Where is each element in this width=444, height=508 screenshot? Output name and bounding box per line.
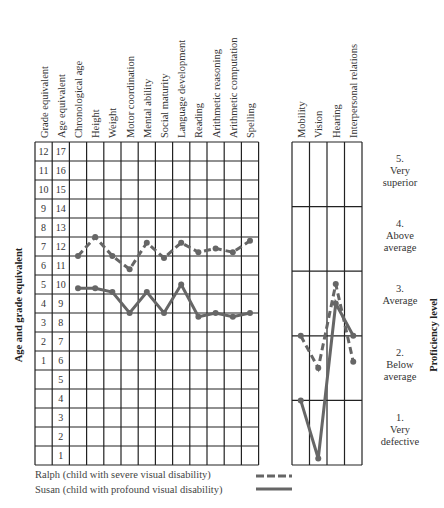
data-point xyxy=(213,245,219,251)
proficiency-chart: 1211109876543211716151413121110987654321… xyxy=(0,0,444,508)
column-header: Arithmetic reasoning xyxy=(211,48,222,138)
data-point xyxy=(92,234,98,240)
age-tick: 15 xyxy=(56,184,66,195)
data-point xyxy=(92,285,98,291)
column-header: Grade equivalent xyxy=(39,66,50,138)
y-axis-label-left: Age and grade equivalent xyxy=(13,247,24,362)
grade-tick: 10 xyxy=(39,184,49,195)
column-header: Social maturity xyxy=(159,73,170,138)
data-point xyxy=(230,249,236,255)
legend-ralph-label: Ralph (child with severe visual disabili… xyxy=(35,469,211,480)
column-header: Hearing xyxy=(331,103,342,138)
age-tick: 14 xyxy=(56,203,66,214)
grade-tick: 2 xyxy=(41,336,46,347)
y-axis-label-right: Proficiency level xyxy=(428,298,439,372)
grade-tick: 7 xyxy=(41,241,46,252)
column-header: Language development xyxy=(176,40,187,138)
data-point xyxy=(127,266,133,272)
data-point xyxy=(350,359,356,365)
grade-tick: 8 xyxy=(41,222,46,233)
data-point xyxy=(230,314,236,320)
column-header: Chronological age xyxy=(73,60,84,138)
column-header: Weight xyxy=(107,108,118,138)
column-header: Height xyxy=(90,109,101,138)
grade-tick: 11 xyxy=(39,165,49,176)
level-label: Very xyxy=(390,424,411,435)
level-number: 2. xyxy=(396,347,404,358)
level-number: 3. xyxy=(396,283,404,294)
data-point xyxy=(298,397,304,403)
grade-tick: 3 xyxy=(41,317,46,328)
level-number: 5. xyxy=(396,153,404,164)
level-label: superior xyxy=(383,177,418,188)
data-point xyxy=(178,240,184,246)
column-header: Age equivalent xyxy=(56,74,67,138)
data-point xyxy=(144,289,150,295)
data-point xyxy=(333,281,339,287)
age-tick: 9 xyxy=(58,298,63,309)
column-header: Vision xyxy=(313,110,324,138)
legend-susan-label: Susan (child with profound visual disabi… xyxy=(35,484,223,495)
age-tick: 4 xyxy=(58,393,63,404)
age-tick: 13 xyxy=(56,222,66,233)
data-point xyxy=(195,249,201,255)
age-tick: 7 xyxy=(58,336,63,347)
age-tick: 17 xyxy=(56,146,66,157)
level-number: 1. xyxy=(396,412,404,423)
age-tick: 1 xyxy=(58,450,63,461)
level-label: defective xyxy=(381,436,420,447)
grade-tick: 5 xyxy=(41,279,46,290)
column-header: Spelling xyxy=(245,102,256,138)
level-label: Average xyxy=(383,295,418,306)
age-tick: 3 xyxy=(58,412,63,423)
grade-tick: 4 xyxy=(41,298,46,309)
level-label: Below xyxy=(386,359,414,370)
grade-tick: 1 xyxy=(41,355,46,366)
grade-tick: 9 xyxy=(41,203,46,214)
age-tick: 12 xyxy=(56,241,66,252)
column-header: Reading xyxy=(193,102,204,138)
level-label: average xyxy=(384,371,417,382)
data-point xyxy=(247,238,253,244)
age-tick: 16 xyxy=(56,165,66,176)
data-point xyxy=(109,289,115,295)
column-header: Interpersonal relations xyxy=(348,44,359,138)
age-tick: 5 xyxy=(58,374,63,385)
grade-tick: 6 xyxy=(41,260,46,271)
data-point xyxy=(247,310,253,316)
data-point xyxy=(213,310,219,316)
level-label: Above xyxy=(386,230,414,241)
level-label: Very xyxy=(390,165,411,176)
column-header: Mobility xyxy=(296,100,307,138)
data-point xyxy=(161,255,167,261)
data-point xyxy=(144,240,150,246)
level-label: average xyxy=(384,242,417,253)
data-point xyxy=(109,253,115,259)
data-point xyxy=(127,310,133,316)
column-header: Motor coordination xyxy=(125,55,136,138)
grade-tick: 12 xyxy=(39,146,49,157)
data-point xyxy=(298,333,304,339)
data-point xyxy=(315,456,321,462)
data-point xyxy=(161,310,167,316)
age-tick: 2 xyxy=(58,431,63,442)
data-point xyxy=(315,365,321,371)
data-point xyxy=(195,314,201,320)
data-point xyxy=(178,282,184,288)
data-point xyxy=(75,285,81,291)
age-tick: 10 xyxy=(56,279,66,290)
data-point xyxy=(75,253,81,259)
column-header: Arithmetic computation xyxy=(228,37,239,138)
column-header: Mental ability xyxy=(142,78,153,138)
age-tick: 11 xyxy=(56,260,66,271)
age-tick: 8 xyxy=(58,317,63,328)
data-point xyxy=(350,333,356,339)
data-point xyxy=(333,301,339,307)
level-number: 4. xyxy=(396,218,404,229)
age-tick: 6 xyxy=(58,355,63,366)
